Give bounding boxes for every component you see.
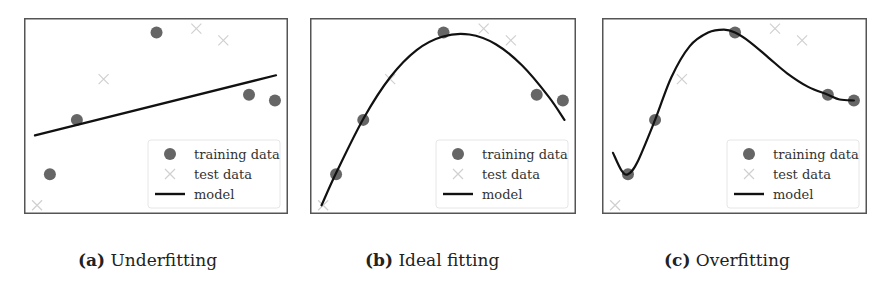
- legend-model-label: model: [194, 187, 234, 202]
- panel-b: training datatest datamodel (b) Ideal fi…: [295, 0, 590, 293]
- plot-area-a: training datatest datamodel: [24, 18, 288, 214]
- caption-title-a: Underfitting: [111, 250, 218, 270]
- legend: training datatest datamodel: [436, 140, 568, 208]
- caption-b: (b) Ideal fitting: [365, 250, 499, 270]
- caption-title-b: Ideal fitting: [398, 250, 499, 270]
- legend-test-label: test data: [773, 167, 831, 182]
- legend-training-label: training data: [773, 147, 859, 162]
- legend-test-label: test data: [194, 167, 252, 182]
- legend: training datatest datamodel: [727, 140, 859, 208]
- training-point-dot: [531, 89, 543, 101]
- legend-model-label: model: [773, 187, 813, 202]
- caption-c: (c) Overfitting: [664, 250, 790, 270]
- caption-label-b: (b): [365, 250, 393, 270]
- legend-training-label: training data: [482, 147, 568, 162]
- legend-training-label: training data: [194, 147, 280, 162]
- caption-a: (a) Underfitting: [78, 250, 217, 270]
- training-point-dot: [557, 94, 569, 106]
- chart-ideal-fitting: training datatest datamodel: [310, 18, 576, 214]
- training-point-dot: [243, 89, 255, 101]
- legend-model-label: model: [482, 187, 522, 202]
- caption-label-a: (a): [78, 250, 105, 270]
- training-point-dot: [269, 94, 281, 106]
- chart-overfitting: training datatest datamodel: [602, 18, 867, 214]
- legend-dot-icon: [452, 148, 464, 160]
- plot-area-c: training datatest datamodel: [602, 18, 867, 214]
- legend: training datatest datamodel: [148, 140, 280, 208]
- legend-dot-icon: [164, 148, 176, 160]
- panel-c: training datatest datamodel (c) Overfitt…: [590, 0, 885, 293]
- legend-dot-icon: [743, 148, 755, 160]
- caption-title-c: Overfitting: [696, 250, 790, 270]
- chart-underfitting: training datatest datamodel: [24, 18, 288, 214]
- training-point-dot: [44, 168, 56, 180]
- legend-test-label: test data: [482, 167, 540, 182]
- panel-a: training datatest datamodel (a) Underfit…: [0, 0, 295, 293]
- plot-area-b: training datatest datamodel: [310, 18, 576, 214]
- training-point-dot: [151, 27, 163, 39]
- caption-label-c: (c): [664, 250, 690, 270]
